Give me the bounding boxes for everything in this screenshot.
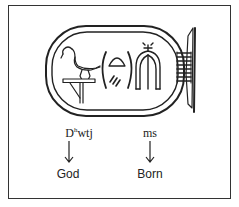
cartouche-drawing	[0, 0, 239, 207]
cartouche-tie-icon	[177, 28, 195, 112]
meaning-god: God	[57, 167, 80, 181]
placenta-glyph-icon	[103, 52, 132, 88]
transliteration-djhwtj: Dhwtj	[65, 126, 93, 141]
arrow-down-icon	[144, 140, 156, 164]
meaning-born: Born	[137, 167, 162, 181]
cartouche-ring-icon	[46, 26, 184, 116]
transliteration-ms: ms	[143, 126, 157, 141]
ms-glyph-icon	[136, 43, 160, 89]
ibis-on-standard-icon	[61, 47, 100, 103]
arrow-down-icon	[63, 140, 75, 164]
